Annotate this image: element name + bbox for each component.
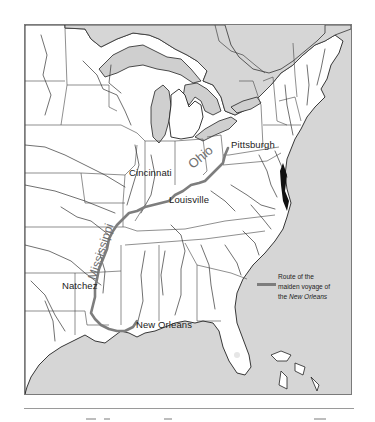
- city-label-cincinnati: Cincinnati: [129, 167, 172, 178]
- legend-line-3-prefix: the: [278, 293, 289, 300]
- eastern-us-map: [25, 25, 351, 394]
- legend-line-1: Route of the: [278, 272, 330, 282]
- city-label-new-orleans: New Orleans: [136, 319, 192, 330]
- city-label-natchez: Natchez: [62, 280, 98, 291]
- route-legend-swatch: [257, 283, 276, 286]
- lake-okeechobee: [234, 352, 240, 358]
- legend-line-3: the New Orleans: [278, 292, 330, 302]
- map-frame: Pittsburgh Cincinnati Louisville Natchez…: [24, 24, 352, 395]
- cropped-caption-fragments: [24, 416, 354, 422]
- legend-text: Route of the maiden voyage of the New Or…: [278, 272, 330, 302]
- divider-line: [24, 408, 354, 409]
- legend-line-2: maiden voyage of: [278, 282, 330, 292]
- city-label-pittsburgh: Pittsburgh: [231, 139, 275, 150]
- city-label-louisville: Louisville: [169, 194, 209, 205]
- bahamas-islands: [271, 351, 319, 391]
- legend-line-3-italic: New Orleans: [289, 293, 327, 300]
